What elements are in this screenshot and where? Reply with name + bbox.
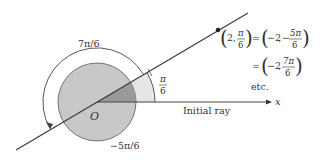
svg-text:,: , [278,32,281,43]
svg-text:6: 6 [285,68,290,78]
initial-ray-label: Initial ray [183,105,231,116]
svg-text:,: , [233,32,236,43]
svg-text:6: 6 [238,40,243,50]
svg-text:π: π [159,74,167,84]
svg-text:6: 6 [292,40,297,50]
negative-five-pi-over-6-label: −5π/6 [110,140,140,151]
x-axis-label: x [275,96,281,107]
svg-text:−: − [282,32,290,43]
equation: ( 2 , π 6 ) = ( −2 , − 5π 6 ) = ( −2 , 7… [220,26,310,92]
svg-text:): ) [295,54,303,78]
svg-text:π: π [237,28,244,38]
pi-over-6-label: π 6 [159,74,167,96]
seven-pi-over-6-label: 7π/6 [78,38,100,49]
polar-diagram: O x Initial ray π 6 7π/6 −5π/6 ( 2 , π 6… [0,0,321,160]
etc-label: etc. [251,81,269,92]
terminal-ray [16,13,248,150]
svg-text:): ) [302,26,310,50]
svg-text:=: = [252,33,260,44]
x-axis-arrow-icon [266,100,272,105]
origin-label: O [90,110,99,123]
svg-text:5π: 5π [290,28,301,38]
svg-text:6: 6 [160,86,166,96]
svg-text:=: = [252,61,260,72]
svg-text:7π: 7π [283,56,294,66]
svg-text:,: , [278,60,281,71]
